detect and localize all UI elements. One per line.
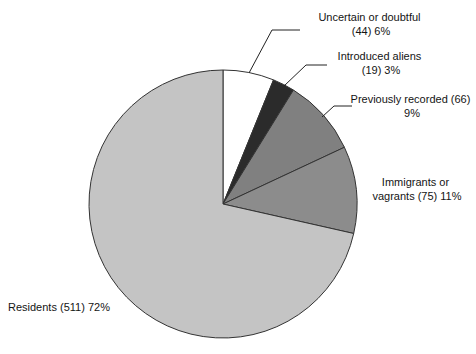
pie-chart-canvas: Uncertain or doubtful (44) 6% Introduced… xyxy=(0,0,476,354)
pie-label-residents: Residents (511) 72% xyxy=(8,301,110,313)
pie-label-introduced-aliens: Introduced aliens (19) 3% xyxy=(338,50,425,76)
leader-line-introduced-aliens xyxy=(284,65,327,86)
leader-line-previously-recorded xyxy=(322,106,352,117)
pie-slices xyxy=(89,70,357,338)
pie-label-previously-recorded: Previously recorded (66) 9% xyxy=(351,93,474,119)
pie-chart: Uncertain or doubtful (44) 6% Introduced… xyxy=(0,0,476,354)
leader-line-uncertain-or-doubtful xyxy=(249,30,300,73)
pie-label-uncertain-or-doubtful: Uncertain or doubtful (44) 6% xyxy=(318,11,423,37)
pie-label-immigrants-or-vagrants: Immigrants or vagrants (75) 11% xyxy=(372,176,461,202)
